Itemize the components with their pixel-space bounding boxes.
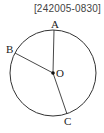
center-dot: [51, 71, 55, 75]
label-c: C: [64, 115, 71, 127]
radius-oa: [53, 30, 54, 73]
label-a: A: [51, 18, 59, 30]
circle-diagram: A B O C: [0, 0, 104, 133]
radius-ob: [15, 53, 53, 73]
label-b: B: [6, 43, 13, 55]
radius-oc: [53, 73, 67, 114]
label-o: O: [56, 67, 64, 79]
